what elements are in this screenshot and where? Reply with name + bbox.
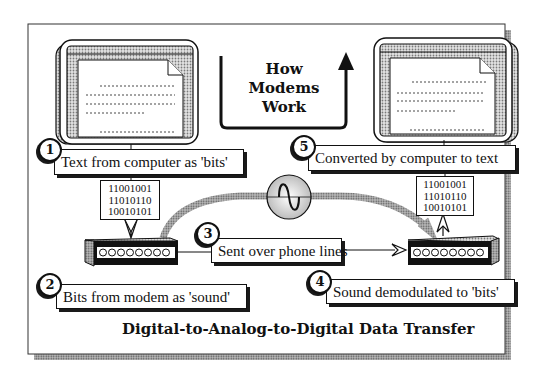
step-2-text: Bits from modem as 'sound' [63, 289, 230, 305]
heading-line-3: Work [238, 98, 330, 117]
step-3-label: Sent over phone lines [211, 238, 342, 263]
step-2-label: Bits from modem as 'sound' [56, 284, 247, 309]
binary-row: 10010101 [104, 206, 156, 218]
binary-row: 10010101 [420, 202, 470, 214]
binary-row: 11001001 [104, 183, 156, 195]
binary-bits-left: 11001001 11010110 10010101 [100, 180, 160, 220]
step-5-text: Converted by computer to text [315, 150, 498, 166]
step-4-badge: 4 [308, 270, 332, 294]
step-2-badge: 2 [38, 273, 62, 297]
step-1-badge: 1 [38, 138, 62, 162]
sine-wave-icon [267, 175, 311, 219]
step-3-text: Sent over phone lines [218, 243, 348, 259]
heading-line-2: Modems [238, 79, 330, 98]
step-4-text: Sound demodulated to 'bits' [333, 284, 499, 300]
binary-row: 11001001 [420, 179, 470, 191]
step-5-badge: 5 [292, 135, 316, 159]
left-computer-monitor-icon [56, 40, 198, 144]
step-3-badge: 3 [196, 222, 220, 246]
right-modem-icon [408, 236, 499, 265]
right-computer-monitor-icon [374, 38, 518, 142]
step-4-label: Sound demodulated to 'bits' [326, 279, 515, 304]
left-modem-icon [85, 238, 178, 266]
diagram-heading: How Modems Work [238, 60, 330, 117]
binary-bits-right: 11001001 11010110 10010101 [416, 176, 474, 216]
step-5-label: Converted by computer to text [308, 145, 516, 171]
heading-line-1: How [238, 60, 330, 79]
diagram-title: Digital-to-Analog-to-Digital Data Transf… [122, 320, 474, 338]
step-1-label: Text from computer as 'bits' [54, 149, 244, 175]
step-1-text: Text from computer as 'bits' [61, 154, 228, 170]
